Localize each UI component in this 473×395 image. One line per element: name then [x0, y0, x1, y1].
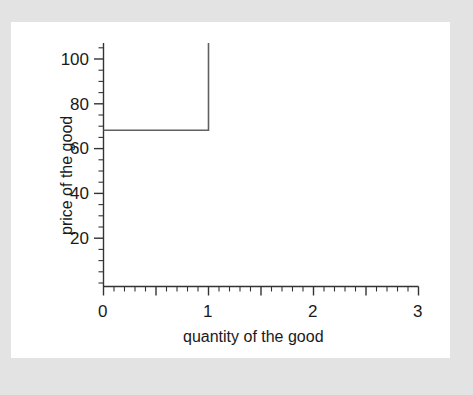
- y-axis-minor-ticks: [99, 48, 104, 283]
- x-tick-label-2: 2: [308, 303, 317, 320]
- x-tick-label-1: 1: [203, 303, 212, 320]
- plot-area: 100 80 60 40 20 0 1 2 3 quantity of the …: [11, 22, 450, 358]
- x-axis-major-ticks: [104, 287, 419, 296]
- x-axis-title: quantity of the good: [183, 329, 324, 345]
- chart-card: 100 80 60 40 20 0 1 2 3 quantity of the …: [11, 22, 450, 358]
- figure-root: 100 80 60 40 20 0 1 2 3 quantity of the …: [0, 0, 473, 395]
- x-tick-label-0: 0: [98, 303, 107, 320]
- supply-curve-line: [104, 43, 209, 130]
- y-tick-label-100: 100: [61, 51, 89, 68]
- x-tick-label-3: 3: [413, 303, 422, 320]
- y-axis-major-ticks: [94, 59, 104, 238]
- y-tick-label-80: 80: [70, 96, 89, 113]
- y-axis-title: price of the good: [59, 116, 75, 235]
